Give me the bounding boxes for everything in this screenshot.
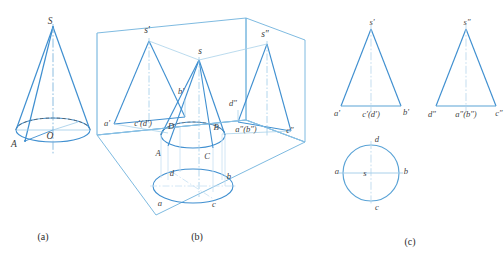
- part-c-side-view-group: [436, 25, 496, 112]
- label-apex-S: S: [48, 16, 53, 26]
- figure-root: S O A: [0, 0, 504, 257]
- label-point-A: A: [10, 139, 17, 149]
- label-c-top-b: b: [404, 166, 409, 176]
- label-center-O: O: [47, 131, 54, 141]
- label-b-a-dp-b-dp: a″(b″): [235, 124, 257, 134]
- technical-drawing-svg: S O A: [0, 0, 504, 257]
- space-cone-generatrix-A: [168, 60, 199, 146]
- label-b-c-double-prime: c″: [286, 125, 294, 135]
- c-side-left-slant: [436, 29, 466, 106]
- space-cone-slant-left: [161, 60, 199, 135]
- cone-a-generatrix-SA: [25, 27, 53, 141]
- label-c-c-prime-d-prime: c'(d'): [362, 109, 380, 119]
- part-c-front-view-group: [341, 25, 401, 112]
- cone-a-slant-left: [16, 27, 53, 130]
- side-proj-left-slant: [238, 44, 267, 122]
- caption-c: (c): [404, 236, 415, 248]
- cone-a-apex-point: [52, 26, 54, 28]
- box-horizontal-plane: [97, 120, 305, 215]
- label-c-d-double-prime: d″: [428, 109, 436, 119]
- box-frontal-plane: [97, 18, 246, 135]
- label-b-b: b: [227, 171, 232, 181]
- label-b-B: B: [213, 122, 219, 132]
- label-c-b-prime: b': [403, 107, 409, 117]
- c-front-left-slant: [341, 29, 371, 106]
- cone-a-slant-right: [53, 27, 90, 130]
- c-front-right-slant: [371, 29, 401, 106]
- label-b-c-prime-d-prime: c'(d'): [134, 118, 152, 128]
- corr-apex-s-to-s-dp: [199, 44, 267, 60]
- side-proj-right-slant: [267, 44, 291, 131]
- label-b-c: c: [212, 199, 216, 209]
- label-c-a-prime: a': [334, 108, 340, 118]
- cone-a-radius-back: [53, 122, 78, 130]
- space-cone-generatrix-C: [199, 60, 213, 148]
- label-b-A: A: [154, 148, 161, 158]
- c-side-right-slant: [466, 29, 496, 106]
- label-c-apex-s-double-prime: s″: [464, 17, 471, 27]
- label-c-top-a: a: [335, 166, 339, 176]
- label-b-d: d: [170, 168, 175, 178]
- caption-a: (a): [37, 231, 48, 243]
- label-b-apex-s: s: [198, 46, 202, 56]
- label-b-D: D: [167, 121, 175, 131]
- part-c-top-view-group: [339, 141, 403, 205]
- label-c-top-c: c: [375, 202, 379, 212]
- label-c-top-d: d: [375, 134, 380, 144]
- label-c-c-double-prime: c″: [495, 108, 503, 118]
- label-b-a-prime: a': [104, 118, 110, 128]
- label-b-a: a: [158, 198, 162, 208]
- label-b-C: C: [204, 151, 210, 161]
- front-proj-left-slant: [114, 41, 149, 124]
- label-c-apex-s-prime: s': [369, 17, 374, 27]
- label-b-d-double-prime: d″: [229, 98, 237, 108]
- label-b-b-prime: b': [178, 86, 184, 96]
- label-b-apex-s-double-prime: s″: [261, 29, 270, 39]
- label-b-apex-s-prime: s': [144, 25, 151, 35]
- cone-a-point-A-marker: [24, 140, 26, 142]
- label-c-a-dp-b-dp: a″(b″): [455, 109, 477, 119]
- caption-b: (b): [191, 231, 203, 243]
